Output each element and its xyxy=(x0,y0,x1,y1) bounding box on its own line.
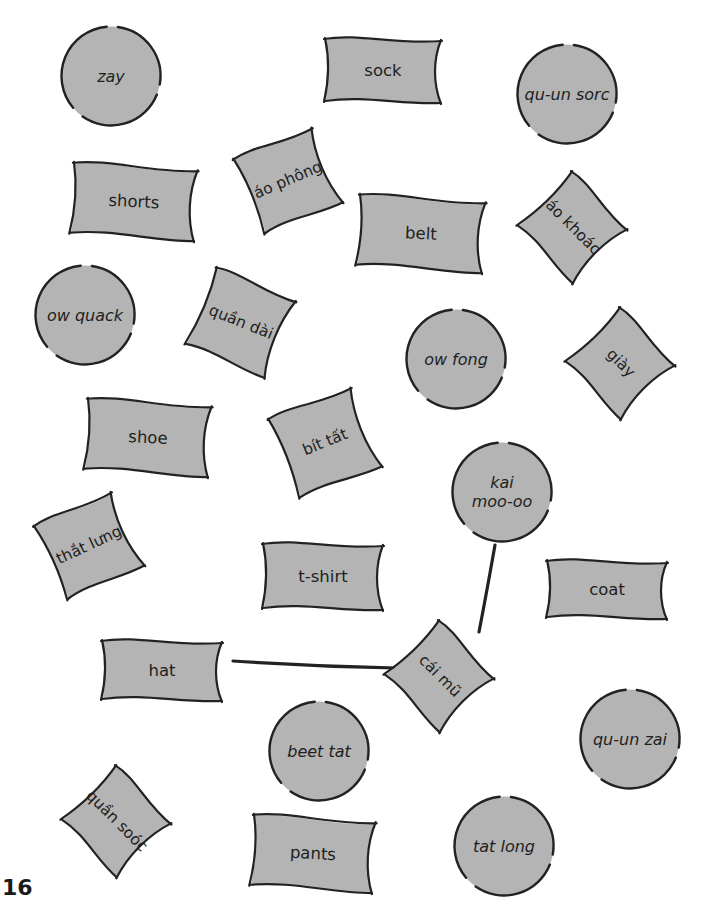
card-label: belt xyxy=(405,223,438,244)
card-label: tat long xyxy=(473,837,535,856)
card-label: coat xyxy=(589,580,625,599)
word-card-quan-dai[interactable]: quần dài xyxy=(184,265,299,380)
word-card-qu-un-zai[interactable]: qu-un zai xyxy=(579,688,681,790)
card-label: shorts xyxy=(108,190,160,212)
word-card-sock[interactable]: sock xyxy=(324,36,442,104)
word-card-cai-mu[interactable]: cái mũ xyxy=(382,618,498,734)
word-card-ow-fong[interactable]: ow fong xyxy=(405,308,507,410)
card-label: hat xyxy=(148,661,175,680)
word-card-kai-moo-oo[interactable]: kaimoo-oo xyxy=(451,441,553,543)
card-label: qu-un sorc xyxy=(525,85,610,104)
word-card-shorts[interactable]: shorts xyxy=(69,160,199,242)
word-card-belt[interactable]: belt xyxy=(355,192,487,275)
word-card-ao-khoac[interactable]: áo khoác xyxy=(515,169,631,285)
word-card-zay[interactable]: zay xyxy=(60,25,162,127)
word-card-ow-quack[interactable]: ow quack xyxy=(34,264,136,366)
word-card-that-lung[interactable]: thắt lưng xyxy=(32,488,146,602)
card-label: sock xyxy=(364,61,401,80)
word-card-pants[interactable]: pants xyxy=(249,812,377,894)
word-card-giay[interactable]: giày xyxy=(563,305,679,421)
word-card-shoe[interactable]: shoe xyxy=(83,396,213,478)
card-label: pants xyxy=(289,842,336,863)
word-card-bit-tat[interactable]: bít tất xyxy=(266,383,383,500)
card-label: ow quack xyxy=(47,306,123,325)
connection-line-kai-moo-oo-cai-mu xyxy=(479,545,495,632)
matching-exercise-page: zay sock qu-un sorc shorts áo phông belt… xyxy=(0,0,707,913)
card-label: shoe xyxy=(128,426,168,447)
word-card-ao-phong[interactable]: áo phông xyxy=(232,124,345,237)
word-card-beet-tat[interactable]: beet tat xyxy=(268,700,370,802)
word-card-hat[interactable]: hat xyxy=(101,638,223,702)
page-number: 16 xyxy=(2,875,33,900)
card-label: t-shirt xyxy=(298,567,347,586)
card-label: ow fong xyxy=(424,350,488,369)
card-label: qu-un zai xyxy=(593,730,667,749)
connection-line-hat-cai-mu xyxy=(233,661,396,668)
word-card-quan-sooc[interactable]: quần soóc xyxy=(59,763,175,879)
card-label: kaimoo-oo xyxy=(472,473,533,511)
word-card-t-shirt[interactable]: t-shirt xyxy=(262,541,384,611)
word-card-tat-long[interactable]: tat long xyxy=(453,795,555,897)
card-label: beet tat xyxy=(287,742,351,761)
word-card-qu-un-sorc[interactable]: qu-un sorc xyxy=(516,43,618,145)
card-label: zay xyxy=(97,67,125,86)
word-card-coat[interactable]: coat xyxy=(546,558,668,620)
